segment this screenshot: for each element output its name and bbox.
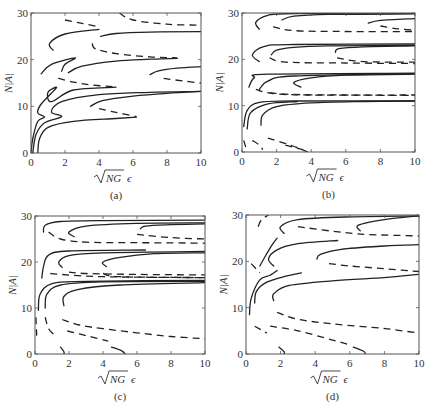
curve-solid-5 <box>59 251 205 267</box>
panel-caption: (c) <box>114 390 127 403</box>
x-tick-label: 10 <box>410 155 422 167</box>
y-tick-label: 20 <box>228 53 240 65</box>
curve-solid-7 <box>43 220 205 232</box>
figure-canvas: 02468100102030NGϵN|A|(a) 02468100102030N… <box>0 0 434 410</box>
curve-dashed-2 <box>270 326 350 345</box>
curve-solid-3 <box>31 87 116 153</box>
y-axis-label: N|A| <box>217 274 229 295</box>
y-tick-label: 30 <box>21 210 33 222</box>
x-tick-label: 4 <box>308 155 314 167</box>
x-axis-label-text: NG <box>105 172 121 184</box>
y-tick-label: 20 <box>17 54 29 66</box>
curve-dashed-1 <box>99 109 136 117</box>
x-tick-label: 10 <box>196 156 208 168</box>
curve-solid-2 <box>33 91 201 153</box>
curve-solid-2 <box>255 273 302 303</box>
curve-dashed-6 <box>119 13 201 25</box>
y-tick-label: 30 <box>228 7 240 19</box>
y-axis-label: N|A| <box>2 73 14 94</box>
x-tick-label: 8 <box>382 357 388 369</box>
curve-solid-10 <box>61 347 65 354</box>
curve-solid-11 <box>112 347 126 354</box>
x-tick-label: 0 <box>239 155 245 167</box>
curve-solid-1 <box>38 117 137 153</box>
y-tick-label: 10 <box>21 302 33 314</box>
curve-solid-1 <box>250 271 278 315</box>
x-axis-label-text: NG <box>109 373 125 385</box>
panel-d: 02468100102030NGϵN|A|(d) <box>217 209 425 403</box>
curve-solid-9 <box>140 224 205 229</box>
y-axis-label: N|A| <box>213 72 225 93</box>
y-tick-label: 10 <box>228 100 240 112</box>
x-tick-label: 0 <box>32 357 38 369</box>
x-tick-label: 2 <box>274 155 280 167</box>
curve-solid-10 <box>353 347 365 354</box>
x-axis-label-epsilon: ϵ <box>344 373 349 385</box>
y-tick-label: 20 <box>21 256 33 268</box>
curve-dashed-7 <box>329 264 419 272</box>
panel-caption: (d) <box>326 390 339 403</box>
curve-solid-2 <box>247 102 297 129</box>
curve-solid-12 <box>368 19 415 24</box>
curve-solid-3 <box>273 274 419 300</box>
curve-dashed-5 <box>65 20 99 27</box>
curve-dashed-3 <box>164 78 201 83</box>
curve-dashed-4 <box>62 320 205 339</box>
panel-caption: (b) <box>322 188 335 201</box>
x-tick-label: 6 <box>134 357 140 369</box>
y-tick-label: 30 <box>17 7 29 19</box>
curve-solid-8 <box>357 216 419 231</box>
x-axis-label: NGϵ <box>98 371 136 385</box>
x-axis-label: NGϵ <box>311 371 349 385</box>
curve-dashed-5 <box>258 215 268 227</box>
x-tick-label: 2 <box>278 357 284 369</box>
x-tick-label: 8 <box>164 156 170 168</box>
x-axis-label-epsilon: ϵ <box>127 172 132 184</box>
curve-solid-3 <box>63 283 205 306</box>
panel-c: 02468100102030NGϵN|A|(c) <box>6 210 211 403</box>
plot-area <box>250 215 420 354</box>
curve-solid-4 <box>268 241 337 267</box>
y-tick-label: 10 <box>232 302 244 314</box>
x-axis-label-epsilon: ϵ <box>340 171 345 183</box>
y-tick-label: 0 <box>27 348 33 360</box>
panel-caption: (a) <box>110 189 123 202</box>
curve-solid-5 <box>317 245 419 259</box>
curve-solid-6 <box>102 253 205 267</box>
x-tick-label: 0 <box>28 156 34 168</box>
x-tick-label: 10 <box>200 357 212 369</box>
curve-dashed-1 <box>255 326 267 333</box>
curve-dashed-4 <box>92 43 177 58</box>
plot-area <box>31 13 201 153</box>
plot-area <box>244 13 415 152</box>
curve-dashed-2 <box>252 140 262 149</box>
axes-frame <box>242 13 415 152</box>
curve-solid-6 <box>260 238 277 266</box>
curve-dashed-5 <box>256 89 415 95</box>
y-tick-label: 20 <box>232 255 244 267</box>
x-tick-label: 6 <box>343 155 349 167</box>
curve-solid-9 <box>101 32 201 37</box>
curve-solid-8 <box>49 29 99 50</box>
x-tick-label: 0 <box>243 357 249 369</box>
y-tick-label: 0 <box>23 147 29 159</box>
curve-solid-10 <box>256 13 415 29</box>
y-tick-label: 10 <box>17 100 29 112</box>
x-tick-label: 2 <box>66 357 72 369</box>
curve-dashed-8 <box>337 58 415 62</box>
x-axis-label-text: NG <box>318 171 334 183</box>
panel-b: 02468100102030NGϵN|A|(b) <box>213 7 421 201</box>
x-tick-label: 6 <box>130 156 136 168</box>
x-axis-label-text: NG <box>322 373 338 385</box>
curve-dashed-2 <box>58 78 112 86</box>
curve-dashed-4 <box>251 264 260 273</box>
y-tick-label: 0 <box>234 146 240 158</box>
plot-area <box>36 220 205 354</box>
x-tick-label: 10 <box>414 357 426 369</box>
curve-solid-9 <box>335 46 415 53</box>
x-tick-label: 4 <box>96 156 102 168</box>
curve-dashed-6 <box>69 272 205 275</box>
curve-dashed-2 <box>45 317 55 335</box>
curve-dashed-8 <box>49 232 205 243</box>
x-tick-label: 2 <box>62 156 68 168</box>
